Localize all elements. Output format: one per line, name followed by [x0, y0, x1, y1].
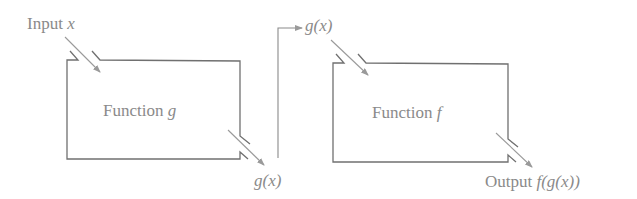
- g-output-label: g(x): [254, 172, 281, 189]
- output-label-var: f(g(x)): [536, 172, 579, 191]
- function-f-title-var: f: [437, 103, 442, 122]
- f-input-text: g(x): [305, 16, 332, 35]
- function-f-title: Function f: [372, 104, 441, 121]
- function-g-title-prefix: Function: [103, 101, 168, 120]
- function-g-title: Function g: [103, 102, 176, 119]
- input-label-prefix: Input: [27, 14, 67, 33]
- connector-line: [278, 28, 302, 158]
- g-output-arrow: [228, 130, 264, 165]
- function-g-title-var: g: [168, 101, 177, 120]
- input-label: Input x: [27, 15, 75, 32]
- f-input-arrow: [331, 40, 368, 75]
- function-f-title-prefix: Function: [372, 103, 437, 122]
- input-label-var: x: [67, 14, 75, 33]
- f-input-label: g(x): [305, 17, 332, 34]
- g-output-text: g(x): [254, 171, 281, 190]
- output-label-prefix: Output: [485, 172, 536, 191]
- output-label: Output f(g(x)): [485, 173, 580, 190]
